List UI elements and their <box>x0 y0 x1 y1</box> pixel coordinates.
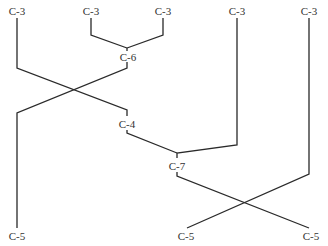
tree-diagram: C-3 C-3 C-3 C-3 C-3 C-6 C-4 C-7 C-5 C-5 … <box>0 0 328 246</box>
edge-c4-to-c7 <box>127 130 177 153</box>
edge-leaf2-to-c6 <box>91 18 127 48</box>
node-label-c4: C-4 <box>119 118 136 130</box>
edge-leaf1-to-c4 <box>17 18 127 116</box>
edge-c7-to-c5-right <box>177 172 309 228</box>
node-label-c3-3: C-3 <box>155 5 172 17</box>
node-label-c7: C-7 <box>169 160 186 172</box>
node-label-c5-middle: C-5 <box>178 230 195 242</box>
node-label-c5-left: C-5 <box>9 230 26 242</box>
node-label-c3-1: C-3 <box>9 5 26 17</box>
edge-leaf5-to-c5-middle <box>187 18 309 228</box>
node-label-c3-5: C-3 <box>301 5 318 17</box>
node-label-c6: C-6 <box>120 51 137 63</box>
node-label-c3-4: C-3 <box>229 5 246 17</box>
edge-leaf3-to-c6 <box>127 18 163 48</box>
edge-c6-to-c5-left <box>17 62 127 228</box>
node-label-c3-2: C-3 <box>83 5 100 17</box>
edge-leaf4-to-c7 <box>177 18 237 158</box>
node-label-c5-right: C-5 <box>303 230 320 242</box>
